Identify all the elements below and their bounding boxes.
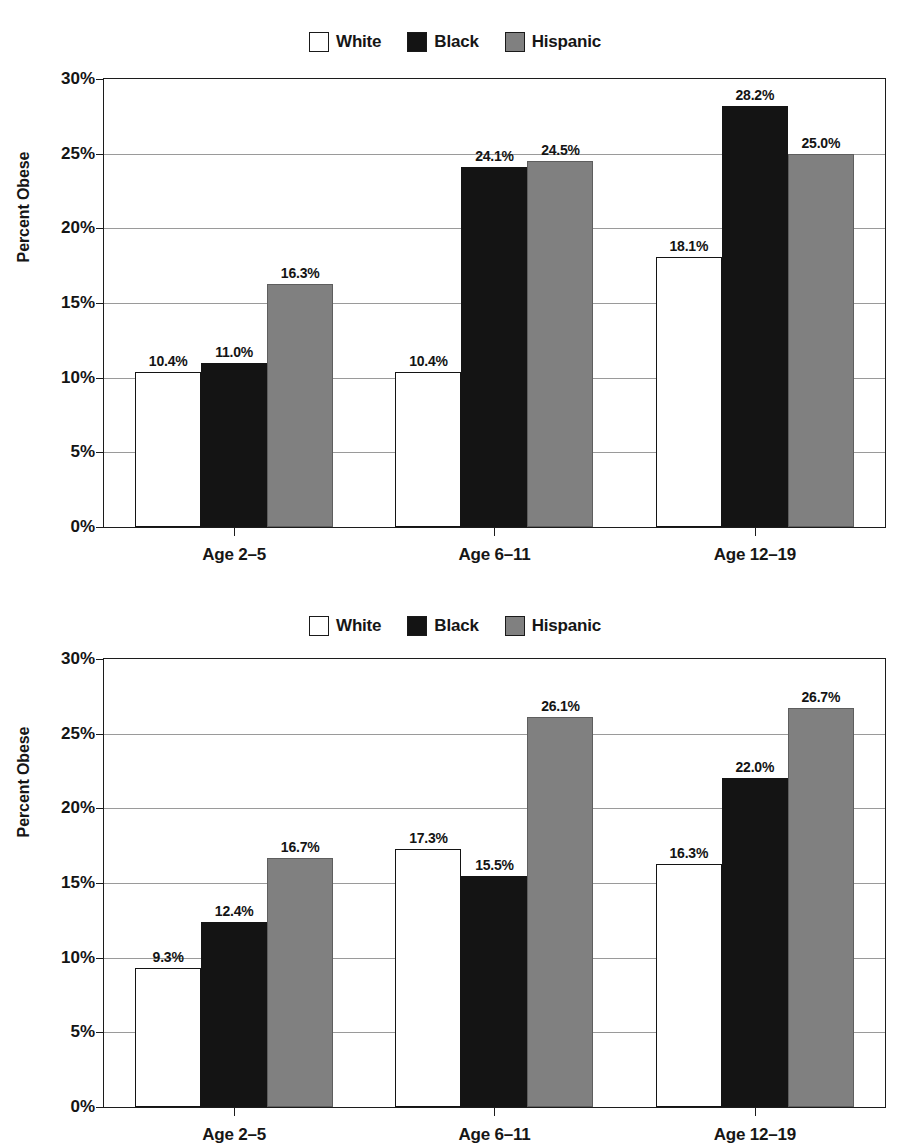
bar-slot: 16.3% — [267, 79, 333, 527]
y-tick-mark — [96, 958, 104, 959]
y-tick-mark — [96, 883, 104, 884]
bar-value-label: 24.5% — [541, 142, 580, 158]
black-swatch — [407, 32, 427, 52]
bar-slot: 25.0% — [788, 79, 854, 527]
x-tick-mark — [494, 527, 495, 536]
y-tick-label: 10% — [61, 368, 95, 388]
bar-black[interactable]: 22.0% — [722, 778, 788, 1107]
bar-slot: 28.2% — [722, 79, 788, 527]
bar-black[interactable]: 28.2% — [722, 106, 788, 527]
bar-white[interactable]: 17.3% — [395, 849, 461, 1107]
x-tick-mark — [755, 527, 756, 536]
bar-black[interactable]: 24.1% — [461, 167, 527, 527]
bars-container: 16.3%22.0%26.7% — [625, 659, 885, 1107]
y-tick-mark — [96, 527, 104, 528]
legend-label: Hispanic — [532, 32, 601, 52]
legend-item-black[interactable]: Black — [407, 32, 478, 52]
bar-value-label: 28.2% — [735, 87, 774, 103]
bar-hispanic[interactable]: 26.7% — [788, 708, 854, 1107]
legend-item-black[interactable]: Black — [407, 616, 478, 636]
hispanic-swatch — [505, 32, 525, 52]
bar-white[interactable]: 18.1% — [656, 257, 722, 527]
hispanic-swatch — [505, 616, 525, 636]
y-tick-mark — [96, 452, 104, 453]
y-tick-label: 0% — [70, 517, 95, 537]
legend-item-white[interactable]: White — [309, 616, 381, 636]
bar-value-label: 16.3% — [669, 845, 708, 861]
bar-white[interactable]: 10.4% — [395, 372, 461, 527]
bars-container: 18.1%28.2%25.0% — [625, 79, 885, 527]
bars-container: 10.4%11.0%16.3% — [104, 79, 364, 527]
y-tick-mark — [96, 1032, 104, 1033]
y-tick-mark — [96, 228, 104, 229]
bar-slot: 16.7% — [267, 659, 333, 1107]
y-tick-mark — [96, 154, 104, 155]
figure-page: WhiteBlackHispanic Percent Obese 0%5%10%… — [0, 0, 910, 1145]
bar-black[interactable]: 12.4% — [201, 922, 267, 1107]
bar-group: 18.1%28.2%25.0%Age 12–19 — [625, 79, 885, 527]
bar-group: 10.4%24.1%24.5%Age 6–11 — [364, 79, 624, 527]
plot-area-top: 0%5%10%15%20%25%30% 10.4%11.0%16.3%Age 2… — [103, 78, 886, 528]
legend-top: WhiteBlackHispanic — [0, 30, 910, 54]
y-tick-label: 15% — [61, 293, 95, 313]
bar-black[interactable]: 15.5% — [461, 876, 527, 1107]
bar-white[interactable]: 16.3% — [656, 864, 722, 1107]
y-axis-title: Percent Obese — [15, 662, 33, 902]
legend-label: Black — [434, 616, 478, 636]
y-tick-label: 20% — [61, 798, 95, 818]
bar-value-label: 9.3% — [153, 949, 184, 965]
white-swatch — [309, 616, 329, 636]
bar-value-label: 24.1% — [475, 148, 514, 164]
y-axis-title: Percent Obese — [15, 87, 33, 327]
bar-slot: 10.4% — [395, 79, 461, 527]
bar-white[interactable]: 9.3% — [135, 968, 201, 1107]
bar-hispanic[interactable]: 24.5% — [527, 161, 593, 527]
bar-slot: 15.5% — [461, 659, 527, 1107]
black-swatch — [407, 616, 427, 636]
bar-slot: 16.3% — [656, 659, 722, 1107]
legend-label: Black — [434, 32, 478, 52]
legend-label: White — [336, 616, 381, 636]
y-tick-label: 15% — [61, 873, 95, 893]
x-axis-group-label: Age 6–11 — [364, 1125, 624, 1145]
bar-value-label: 10.4% — [149, 353, 188, 369]
bar-slot: 26.1% — [527, 659, 593, 1107]
bar-group: 9.3%12.4%16.7%Age 2–5 — [104, 659, 364, 1107]
x-tick-mark — [234, 527, 235, 536]
legend-item-white[interactable]: White — [309, 32, 381, 52]
y-tick-mark — [96, 79, 104, 80]
bar-slot: 26.7% — [788, 659, 854, 1107]
bar-hispanic[interactable]: 25.0% — [788, 154, 854, 527]
bar-slot: 11.0% — [201, 79, 267, 527]
x-tick-mark — [755, 1107, 756, 1116]
x-tick-mark — [234, 1107, 235, 1116]
bar-group: 16.3%22.0%26.7%Age 12–19 — [625, 659, 885, 1107]
y-tick-label: 0% — [70, 1097, 95, 1117]
legend-label: Hispanic — [532, 616, 601, 636]
y-tick-mark — [96, 808, 104, 809]
bar-white[interactable]: 10.4% — [135, 372, 201, 527]
bar-value-label: 12.4% — [215, 903, 254, 919]
bar-value-label: 17.3% — [409, 830, 448, 846]
x-axis-group-label: Age 6–11 — [364, 545, 624, 565]
y-tick-label: 30% — [61, 649, 95, 669]
x-axis-group-label: Age 2–5 — [104, 545, 364, 565]
bar-hispanic[interactable]: 26.1% — [527, 717, 593, 1107]
legend-item-hispanic[interactable]: Hispanic — [505, 616, 601, 636]
bar-groups: 10.4%11.0%16.3%Age 2–510.4%24.1%24.5%Age… — [104, 79, 885, 527]
x-tick-mark — [494, 1107, 495, 1116]
bar-value-label: 25.0% — [801, 135, 840, 151]
y-tick-mark — [96, 659, 104, 660]
bar-value-label: 16.3% — [281, 265, 320, 281]
legend-bottom: WhiteBlackHispanic — [0, 614, 910, 638]
bar-value-label: 26.7% — [801, 689, 840, 705]
bar-black[interactable]: 11.0% — [201, 363, 267, 527]
bar-hispanic[interactable]: 16.7% — [267, 858, 333, 1107]
bar-slot: 17.3% — [395, 659, 461, 1107]
legend-item-hispanic[interactable]: Hispanic — [505, 32, 601, 52]
x-axis-group-label: Age 12–19 — [625, 1125, 885, 1145]
bar-slot: 9.3% — [135, 659, 201, 1107]
bar-value-label: 10.4% — [409, 353, 448, 369]
bar-slot: 24.1% — [461, 79, 527, 527]
bar-hispanic[interactable]: 16.3% — [267, 284, 333, 527]
